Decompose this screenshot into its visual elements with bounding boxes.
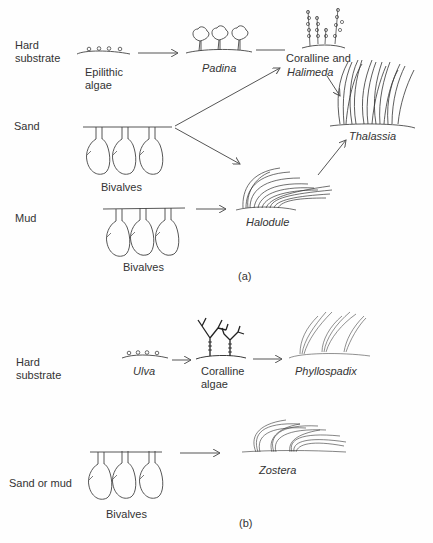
succession-diagram: Hard substrate Epilithic algae Padina Co… bbox=[0, 0, 433, 543]
padina-drawing bbox=[186, 26, 252, 53]
taxon-label-ulva: Ulva bbox=[133, 365, 155, 378]
epilithic-algae-drawing bbox=[77, 47, 130, 54]
taxon-label-halimeda: Halimeda bbox=[287, 66, 333, 79]
taxon-label-thalassia: Thalassia bbox=[349, 130, 396, 143]
row-label-sand: Sand bbox=[14, 120, 40, 133]
panel-caption-a: (a) bbox=[238, 270, 251, 283]
taxon-label-bivalves-b: Bivalves bbox=[106, 508, 147, 521]
panel-caption-b: (b) bbox=[239, 517, 252, 530]
row-label-hard-substrate-a: Hard substrate bbox=[15, 39, 60, 65]
halodule-drawing bbox=[236, 168, 332, 210]
taxon-label-phyllospadix: Phyllospadix bbox=[295, 365, 357, 378]
row-label-mud: Mud bbox=[15, 212, 36, 225]
taxon-label-bivalves-mud: Bivalves bbox=[123, 261, 164, 274]
bivalves-b-drawing bbox=[88, 451, 162, 499]
zostera-drawing bbox=[242, 420, 346, 452]
taxon-label-zostera: Zostera bbox=[259, 464, 296, 477]
taxon-label-padina: Padina bbox=[202, 62, 236, 75]
row-label-hard-substrate-b: Hard substrate bbox=[16, 356, 61, 382]
coralline-halimeda-drawing bbox=[302, 8, 345, 48]
bivalves-sand-drawing bbox=[83, 127, 172, 174]
taxon-label-coralline-algae: Coralline algae bbox=[201, 365, 244, 391]
taxon-label-bivalves-sand: Bivalves bbox=[101, 181, 142, 194]
coralline-algae-drawing bbox=[196, 318, 246, 359]
taxon-label-coralline-and: Coralline and bbox=[286, 52, 351, 65]
ulva-drawing bbox=[122, 351, 168, 358]
taxon-label-epilithic-algae: Epilithic algae bbox=[85, 66, 123, 92]
thalassia-drawing bbox=[330, 60, 415, 128]
phyllospadix-drawing bbox=[289, 312, 370, 358]
taxon-label-halodule: Halodule bbox=[246, 216, 289, 229]
diagram-artwork bbox=[0, 0, 433, 543]
row-label-sand-or-mud: Sand or mud bbox=[9, 477, 72, 490]
bivalves-mud-drawing bbox=[103, 208, 185, 256]
